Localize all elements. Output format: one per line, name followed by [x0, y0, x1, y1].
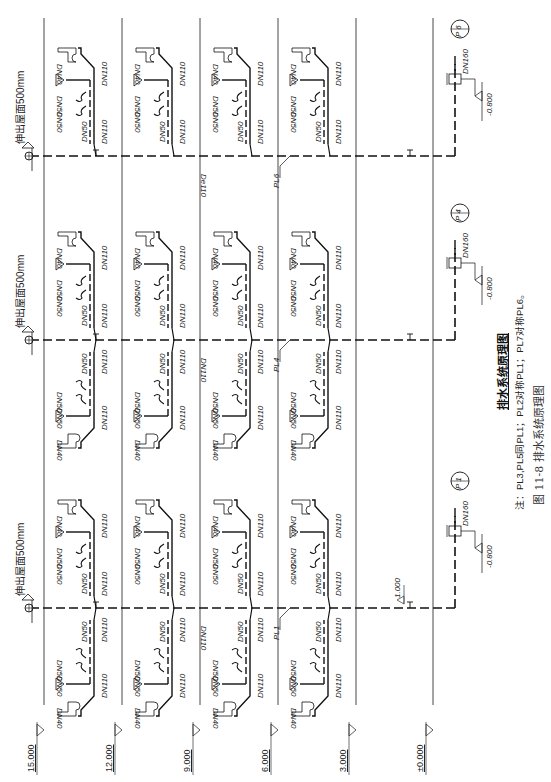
outlet-elevation-label: -0.800	[485, 545, 494, 568]
toilet-branch-size-label: DN40	[133, 64, 142, 84]
branch-main-size-label: DN110	[100, 514, 109, 538]
outlet-elevation-icon	[475, 543, 482, 553]
riser-size-label: DN50	[236, 354, 245, 374]
floor-drain-trap-icon	[76, 544, 86, 554]
floor-drain-size-label: DN50	[211, 296, 220, 316]
floor-drain-trap-icon	[310, 92, 320, 102]
toilet-icon	[214, 232, 232, 246]
floor-drain-size-label: DN50	[289, 564, 298, 584]
riser-size-label: DN50	[158, 354, 167, 374]
floor-drain-size-label: DN50	[289, 660, 298, 680]
floor-elevation-label: 12.000	[104, 744, 114, 772]
floor-drain-size-label: DN50	[211, 564, 220, 584]
toilet-branch-size-label: DN40	[133, 516, 142, 536]
elevation-marker-icon	[37, 724, 44, 736]
floor-drain-trap-icon	[154, 558, 164, 568]
toilet-branch-size-label: DN40	[133, 708, 142, 728]
toilet-icon	[136, 48, 154, 62]
stack-id-label: P 6	[454, 25, 463, 37]
branch-main-size-label: DN110	[178, 674, 187, 698]
toilet-branch-size-label: DN40	[211, 440, 220, 460]
vent-height-label: 伸出屋面500mm	[12, 255, 27, 328]
floor-drain-trap-icon	[154, 395, 164, 405]
floor-elevation-label: 15.000	[26, 744, 36, 772]
floor-drain-trap-icon	[76, 663, 86, 673]
riser-size-label: DN50	[158, 622, 167, 642]
riser-size-label: DN50	[158, 574, 167, 594]
stack-id-label: P 4	[454, 209, 463, 221]
toilet-icon	[214, 500, 232, 514]
riser-size-label: DN50	[80, 306, 89, 326]
floor-drain-trap-icon	[76, 106, 86, 116]
floor-drain-size-label: DN50	[55, 392, 64, 412]
riser-size-label: DN50	[80, 354, 89, 374]
floor-drain-size-label: DN50	[211, 392, 220, 412]
branch-junction-size-label: DN110	[334, 304, 343, 328]
branch-main-size-label: DN110	[178, 406, 187, 430]
branch-main-size-label: DN110	[334, 674, 343, 698]
floor-drain-size-label: DN50	[133, 296, 142, 316]
branch-main-size-label: DN110	[100, 406, 109, 430]
branch-main-size-label: DN110	[178, 62, 187, 86]
branch-main-size-label: DN110	[256, 674, 265, 698]
floor-drain-trap-icon	[310, 649, 320, 659]
floor-drain-trap-icon	[76, 649, 86, 659]
floor-drain-trap-icon	[310, 544, 320, 554]
toilet-branch-size-label: DN40	[289, 64, 298, 84]
branch-main-size-label: DN110	[334, 62, 343, 86]
toilet-branch-size-label: DN40	[133, 440, 142, 460]
diagram-title: 排水系统原理图	[494, 333, 510, 410]
riser-size-label: DN50	[80, 122, 89, 142]
stack-tag-leader	[280, 608, 290, 630]
toilet-icon	[58, 48, 76, 62]
stack-id-tag: PL4	[272, 358, 281, 372]
floor-drain-size-label: DN50	[55, 296, 64, 316]
floor-drain-trap-icon	[76, 276, 86, 286]
riser-size-label: DN50	[314, 354, 323, 374]
stack-tag-leader	[280, 156, 290, 178]
floor-drain-trap-icon	[154, 290, 164, 300]
toilet-icon	[292, 500, 310, 514]
floor-drain-size-label: DN50	[55, 660, 64, 680]
toilet-branch-size-label: DN40	[289, 708, 298, 728]
stack-pipe-size-label: De110	[199, 174, 208, 197]
floor-drain-trap-icon	[310, 558, 320, 568]
toilet-branch-size-label: DN40	[55, 64, 64, 84]
branch-junction-size-label: DN110	[256, 350, 265, 374]
branch-main-size-label: DN110	[256, 406, 265, 430]
riser-size-label: DN50	[236, 122, 245, 142]
floor-drain-size-label: DN50	[289, 112, 298, 132]
branch-junction-size-label: DN110	[178, 572, 187, 596]
toilet-branch-size-label: DN40	[55, 440, 64, 460]
toilet-branch-size-label: DN40	[211, 248, 220, 268]
toilet-icon	[292, 232, 310, 246]
elevation-marker-icon	[349, 724, 356, 736]
branch-junction-size-label: DN110	[178, 304, 187, 328]
riser-size-label: DN50	[80, 622, 89, 642]
riser-size-label: DN50	[236, 574, 245, 594]
riser-size-label: DN50	[314, 122, 323, 142]
outlet-elevation-label: -0.800	[485, 93, 494, 116]
branch-main-size-label: DN110	[178, 246, 187, 270]
toilet-branch-size-label: DN40	[211, 64, 220, 84]
floor-drain-size-label: DN50	[133, 660, 142, 680]
branch-junction-size-label: DN110	[256, 120, 265, 144]
floor-drain-trap-icon	[232, 395, 242, 405]
branch-main-size-label: DN110	[334, 406, 343, 430]
floor-drain-trap-icon	[232, 106, 242, 116]
branch-junction-size-label: DN110	[100, 120, 109, 144]
outlet-elevation-icon	[475, 275, 482, 285]
toilet-icon	[58, 232, 76, 246]
elevation-marker-icon	[193, 724, 200, 736]
outlet-elevation-icon	[475, 91, 482, 101]
floor-drain-size-label: DN50	[211, 660, 220, 680]
outlet-pipe-size-label: DN160	[461, 501, 470, 526]
floor-drain-trap-icon	[76, 395, 86, 405]
diagram-note: 注：PL3,PL5同PL1；PL2对称PL1；PL7对称PL6。	[512, 289, 526, 510]
branch-junction-size-label: DN110	[334, 350, 343, 374]
stack-tag-leader	[280, 340, 290, 362]
branch-main-size-label: DN110	[100, 62, 109, 86]
toilet-icon	[136, 232, 154, 246]
stack-pipe-size-label: DN110	[199, 626, 208, 650]
floor-drain-trap-icon	[154, 381, 164, 391]
